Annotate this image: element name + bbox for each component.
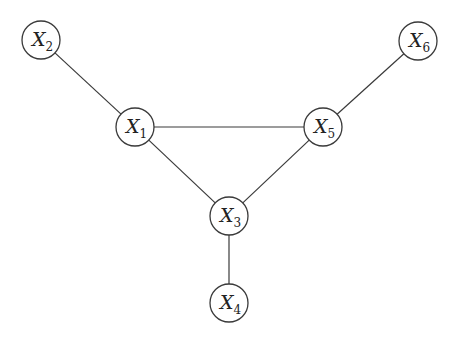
edge-x6-x5 — [337, 54, 404, 114]
edge-x2-x1 — [55, 53, 121, 114]
edge-x5-x3 — [243, 140, 309, 203]
node-x2: X2 — [22, 21, 60, 59]
node-x6: X6 — [399, 22, 437, 60]
edges-layer — [55, 53, 404, 284]
node-x4: X4 — [210, 284, 248, 322]
node-x5: X5 — [304, 108, 342, 146]
node-x1: X1 — [116, 108, 154, 146]
graph-diagram: X1X2X3X4X5X6 — [0, 0, 459, 340]
edge-x1-x3 — [149, 140, 215, 203]
node-x3: X3 — [210, 197, 248, 235]
